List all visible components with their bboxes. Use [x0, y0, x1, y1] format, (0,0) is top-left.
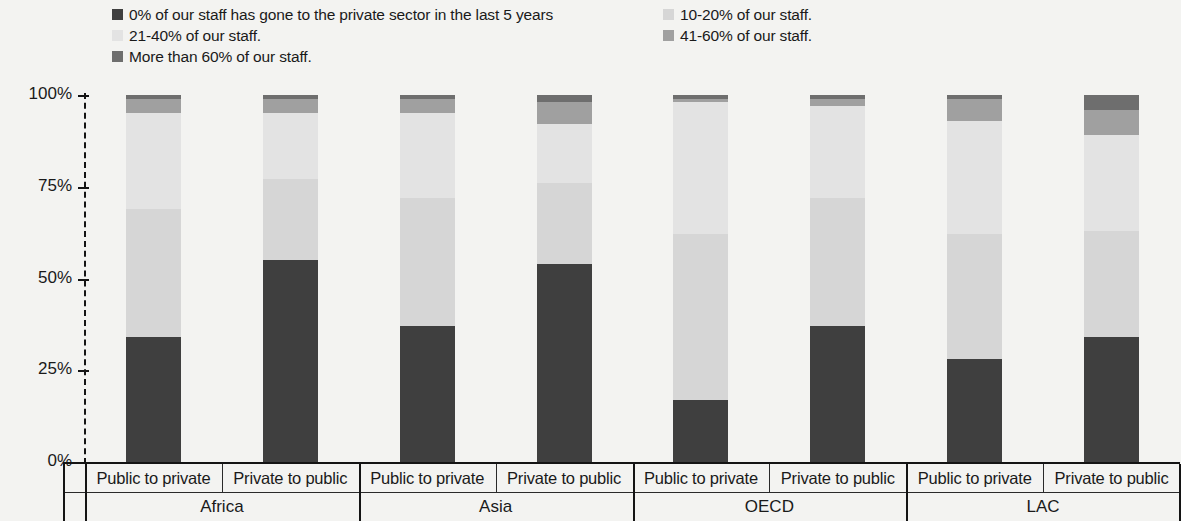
- bar-segment: [947, 121, 1002, 235]
- category-label: Public to private: [85, 465, 222, 492]
- bar-segment: [400, 113, 455, 197]
- bar-segment: [400, 99, 455, 114]
- bar-segment: [537, 124, 592, 183]
- group-label: OECD: [633, 492, 907, 521]
- bar-segment: [1084, 135, 1139, 230]
- bar-segment: [810, 99, 865, 106]
- bar-segment: [673, 400, 728, 462]
- bar-segment: [400, 326, 455, 462]
- bar-segment: [947, 234, 1002, 359]
- stacked-bar[interactable]: [947, 95, 1002, 462]
- category-label: Public to private: [906, 465, 1043, 492]
- category-label: Private to public: [1043, 465, 1180, 492]
- stacked-bars: [85, 95, 1180, 462]
- category-label: Private to public: [769, 465, 906, 492]
- bar-segment: [126, 337, 181, 462]
- bar-segment: [1084, 231, 1139, 337]
- bar-segment: [537, 102, 592, 124]
- group-divider-start: [63, 464, 65, 521]
- bar-segment: [126, 99, 181, 114]
- bar-segment: [126, 209, 181, 337]
- axis-baseline: [63, 462, 1180, 464]
- category-label: Private to public: [222, 465, 359, 492]
- category-label: Public to private: [359, 465, 496, 492]
- group-label: LAC: [906, 492, 1180, 521]
- bar-segment: [263, 113, 318, 179]
- y-axis-tick-label: 100%: [0, 84, 72, 104]
- stacked-bar[interactable]: [537, 95, 592, 462]
- bar-segment: [810, 106, 865, 198]
- y-axis-tick-label: 75%: [0, 176, 72, 196]
- bar-segment: [947, 99, 1002, 121]
- stacked-bar[interactable]: [263, 95, 318, 462]
- bar-segment: [537, 183, 592, 264]
- bar-segment: [126, 113, 181, 208]
- y-axis-tick-label: 25%: [0, 359, 72, 379]
- bar-segment: [673, 102, 728, 234]
- group-label: Africa: [85, 492, 359, 521]
- category-label: Private to public: [496, 465, 633, 492]
- bar-segment: [263, 260, 318, 462]
- category-label: Public to private: [633, 465, 770, 492]
- bar-segment: [263, 99, 318, 114]
- group-label: Asia: [359, 492, 633, 521]
- bar-segment: [673, 234, 728, 399]
- bar-segment: [1084, 110, 1139, 136]
- bar-segment: [537, 95, 592, 102]
- stacked-bar[interactable]: [1084, 95, 1139, 462]
- stacked-bar[interactable]: [673, 95, 728, 462]
- y-axis-tick-label: 50%: [0, 268, 72, 288]
- stacked-bar[interactable]: [810, 95, 865, 462]
- bar-segment: [537, 264, 592, 462]
- bar-segment: [263, 179, 318, 260]
- bar-segment: [1084, 337, 1139, 462]
- bar-segment: [1084, 95, 1139, 110]
- bar-segment: [947, 359, 1002, 462]
- stacked-bar[interactable]: [126, 95, 181, 462]
- bar-segment: [810, 198, 865, 326]
- bar-segment: [810, 326, 865, 462]
- category-axis: Public to privatePrivate to publicAfrica…: [0, 462, 1180, 521]
- bar-segment: [400, 198, 455, 326]
- stacked-bar[interactable]: [400, 95, 455, 462]
